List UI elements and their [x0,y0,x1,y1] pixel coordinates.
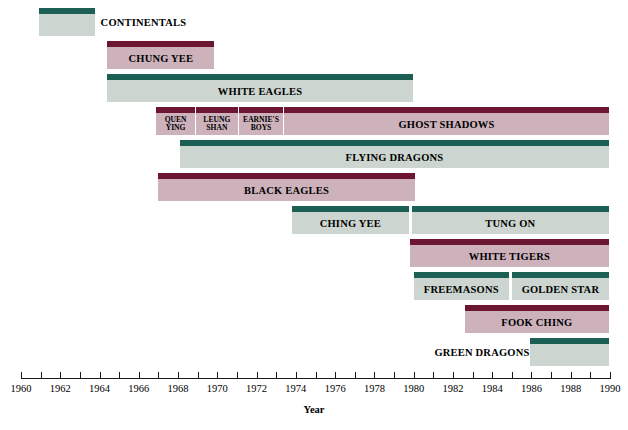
axis-tick-label: 1970 [207,383,228,394]
timeline-row: CONTINENTALS [0,8,628,36]
axis-tick-label: 1988 [560,383,581,394]
timeline-bar[interactable]: LEUNGSHAN [196,107,239,135]
axis-tick [335,372,336,379]
bar-label: GOLDEN STAR [512,278,609,300]
chart-plot-area: CONTINENTALSCHUNG YEEWHITE EAGLESQUENYIN… [0,0,628,372]
timeline-bar[interactable] [39,8,96,36]
axis-tick [551,372,552,379]
bar-body [530,344,609,366]
axis-tick-label: 1968 [168,383,189,394]
bar-label: LEUNGSHAN [196,113,238,135]
bar-label: WHITE EAGLES [107,80,412,102]
axis-tick-label: 1960 [11,383,32,394]
timeline-row: FREEMASONSGOLDEN STAR [0,272,628,300]
axis-tick [296,372,297,379]
timeline-row: GREEN DRAGONS [0,338,628,366]
bar-label-line: BOYS [251,124,272,133]
bar-label: CHING YEE [292,212,409,234]
axis-tick [139,372,140,379]
bar-label-outside: CONTINENTALS [96,8,187,36]
timeline-bar[interactable]: CHING YEE [292,206,410,234]
timeline-row: WHITE EAGLES [0,74,628,102]
bar-label-line: YING [166,124,186,133]
axis-tick-label: 1984 [482,383,503,394]
bar-label: FOOK CHING [465,311,609,333]
timeline-bar[interactable]: CHUNG YEE [107,41,215,69]
timeline-bar[interactable]: FOOK CHING [465,305,610,333]
bar-label: FLYING DRAGONS [180,146,609,168]
axis-tick-label: 1972 [246,383,267,394]
bar-label: WHITE TIGERS [410,245,609,267]
axis-tick [571,372,572,379]
axis-tick-label: 1966 [128,383,149,394]
bar-label: QUENYING [156,113,194,135]
axis-tick-label: 1962 [50,383,71,394]
axis-tick [473,372,474,379]
axis-tick [158,372,159,379]
axis-tick [492,372,493,379]
axis-tick [610,372,611,379]
timeline-bar[interactable]: WHITE TIGERS [410,239,610,267]
axis-tick-label: 1964 [89,383,110,394]
axis-tick [414,372,415,379]
bar-label-line: SHAN [206,124,227,133]
axis-tick [531,372,532,379]
axis-tick-label: 1982 [442,383,463,394]
timeline-bar[interactable] [530,338,610,366]
axis-tick [198,372,199,379]
axis-tick [276,372,277,379]
timeline-row: BLACK EAGLES [0,173,628,201]
timeline-bar[interactable]: EARNIE'SBOYS [239,107,284,135]
timeline-row: FOOK CHING [0,305,628,333]
timeline-row: QUENYINGLEUNGSHANEARNIE'SBOYSGHOST SHADO… [0,107,628,135]
axis-tick [374,372,375,379]
timeline-bar[interactable]: WHITE EAGLES [107,74,413,102]
axis-tick [316,372,317,379]
axis-tick-label: 1974 [285,383,306,394]
axis-tick-label: 1980 [403,383,424,394]
axis-tick-label: 1976 [325,383,346,394]
timeline-chart: CONTINENTALSCHUNG YEEWHITE EAGLESQUENYIN… [0,0,628,430]
bar-label: BLACK EAGLES [158,179,414,201]
axis-tick [100,372,101,379]
axis-tick-label: 1986 [521,383,542,394]
bar-label: TUNG ON [412,212,609,234]
axis-tick [355,372,356,379]
axis-tick [178,372,179,379]
bar-body [39,14,95,36]
timeline-row: CHUNG YEE [0,41,628,69]
axis-tick-label: 1978 [364,383,385,394]
x-axis: 1960196219641966196819701972197419761978… [0,372,628,430]
axis-tick [21,372,22,379]
bar-label: FREEMASONS [414,278,509,300]
timeline-bar[interactable]: GHOST SHADOWS [284,107,610,135]
timeline-row: FLYING DRAGONS [0,140,628,168]
timeline-row: WHITE TIGERS [0,239,628,267]
axis-tick [217,372,218,379]
axis-tick [237,372,238,379]
bar-label: CHUNG YEE [107,47,214,69]
timeline-bar[interactable]: QUENYING [156,107,195,135]
timeline-row: CHING YEETUNG ON [0,206,628,234]
bar-label: EARNIE'SBOYS [239,113,283,135]
axis-tick [433,372,434,379]
timeline-bar[interactable]: TUNG ON [412,206,610,234]
axis-tick [512,372,513,379]
bar-label-outside: GREEN DRAGONS [0,338,535,366]
axis-tick [453,372,454,379]
axis-tick [41,372,42,379]
axis-tick-label: 1990 [600,383,621,394]
axis-title: Year [0,404,628,415]
axis-tick [60,372,61,379]
timeline-bar[interactable]: FLYING DRAGONS [180,140,610,168]
axis-tick [119,372,120,379]
timeline-bar[interactable]: FREEMASONS [414,272,510,300]
axis-tick [257,372,258,379]
bar-label: GHOST SHADOWS [284,113,609,135]
timeline-bar[interactable]: BLACK EAGLES [158,173,415,201]
axis-tick [80,372,81,379]
axis-tick [394,372,395,379]
timeline-bar[interactable]: GOLDEN STAR [512,272,610,300]
axis-tick [590,372,591,379]
